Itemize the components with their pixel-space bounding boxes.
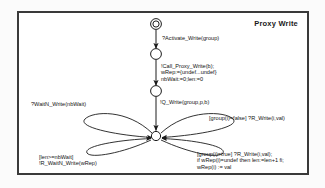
state-node-1 <box>151 49 162 60</box>
transition-label-r-waitn-write: [len>=nbWait] !R_WaitN_Write(wRep) <box>39 154 97 167</box>
transition-label-waitn-write: ?WaitN_Write(nbWait) <box>31 101 86 107</box>
state-node-hub <box>151 131 160 140</box>
transition-label-group-false-r-write: [group(i)=false] ?R_Write(i,val) <box>209 115 285 121</box>
state-node-2 <box>151 86 162 97</box>
diagram-frame: Proxy Write <box>17 11 309 175</box>
transition-label-group-true-r-write: [group(i)=true] ?R_Write(i,val); if wRep… <box>197 151 284 170</box>
transition-label-activate-write: ?Activate_Write(group) <box>162 35 219 41</box>
diagram-root: Proxy Write <box>0 0 325 188</box>
self-loop-waitn-write <box>84 114 152 138</box>
self-loop-r-waitn-write <box>87 139 151 156</box>
state-initial <box>151 19 162 30</box>
transition-label-call-proxy-write: !Call_Proxy_Write(b); wRep:={undef...und… <box>161 63 217 82</box>
transition-label-q-write: !Q_Write(group,p,b) <box>160 99 209 105</box>
